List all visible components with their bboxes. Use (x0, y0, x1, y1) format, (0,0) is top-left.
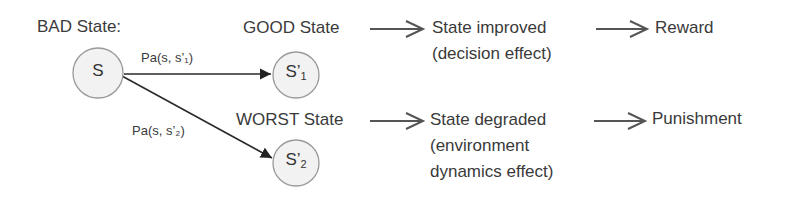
node-s1-label: S’1 (273, 62, 319, 82)
node-s2-text: S’ (285, 150, 300, 169)
edge-label-s1: Pa(s, s’₁) (141, 50, 193, 66)
node-s2-subscript: 2 (301, 158, 307, 170)
reward-label: Reward (655, 15, 714, 41)
flow-arrow-effect-to-reward (596, 21, 647, 37)
node-s1-text: S’ (285, 62, 300, 81)
punishment-label: Punishment (652, 106, 742, 132)
bad-state-label: BAD State: (37, 14, 121, 40)
worst-effect-text: State degraded (environment dynamics eff… (430, 107, 553, 185)
flow-arrow-worst-to-effect (370, 113, 423, 129)
edge-label-s2: Pa(s, s’₂) (132, 123, 185, 139)
good-effect-text: State improved (decision effect) (432, 15, 552, 67)
node-s-label: S (73, 61, 123, 81)
flow-arrow-good-to-effect (370, 21, 423, 37)
good-effect-line-2: (decision effect) (432, 41, 552, 67)
worst-effect-line-2: (environment (430, 133, 553, 159)
flow-arrow-effect-to-punishment (594, 113, 645, 129)
node-s-text: S (92, 61, 103, 80)
node-s2-label: S’2 (273, 150, 319, 170)
good-effect-line-1: State improved (432, 15, 552, 41)
worst-effect-line-1: State degraded (430, 107, 553, 133)
worst-state-label: WORST State (236, 107, 343, 133)
good-state-label: GOOD State (243, 15, 339, 41)
worst-effect-line-3: dynamics effect) (430, 159, 553, 185)
node-s1-subscript: 1 (301, 70, 307, 82)
